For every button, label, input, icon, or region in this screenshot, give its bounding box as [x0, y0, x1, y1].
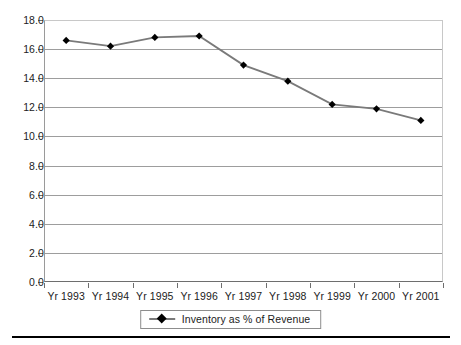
- y-tick-label: 14.0: [8, 73, 44, 83]
- y-tick-label: 8.0: [8, 161, 44, 171]
- y-tick-label: 6.0: [8, 190, 44, 200]
- footer-divider: [12, 336, 450, 338]
- x-tick-mark: [443, 283, 444, 288]
- x-tick-mark: [354, 283, 355, 288]
- x-tick-label: Yr 2001: [391, 291, 451, 302]
- chart-legend: Inventory as % of Revenue: [140, 310, 322, 329]
- series-line: [66, 36, 421, 120]
- x-tick-mark: [266, 283, 267, 288]
- data-point-marker: [107, 43, 114, 50]
- data-point-marker: [63, 37, 70, 44]
- x-tick-mark: [221, 283, 222, 288]
- line-chart: 0.02.04.06.08.010.012.014.016.018.0 Yr 1…: [0, 0, 461, 345]
- data-point-marker: [417, 117, 424, 124]
- diamond-marker-icon: [149, 314, 175, 324]
- data-series-layer: [44, 20, 443, 282]
- y-tick-label: 10.0: [8, 131, 44, 141]
- y-tick-label: 16.0: [8, 44, 44, 54]
- data-point-marker: [329, 101, 336, 108]
- x-tick-mark: [88, 283, 89, 288]
- x-tick-mark: [133, 283, 134, 288]
- x-tick-mark: [44, 283, 45, 288]
- data-point-marker: [373, 105, 380, 112]
- y-tick-label: 12.0: [8, 102, 44, 112]
- data-point-marker: [284, 78, 291, 85]
- legend-item-label: Inventory as % of Revenue: [182, 313, 311, 325]
- x-axis: Yr 1993Yr 1994Yr 1995Yr 1996Yr 1997Yr 19…: [44, 283, 443, 307]
- x-tick-mark: [177, 283, 178, 288]
- x-tick-mark: [399, 283, 400, 288]
- data-point-marker: [151, 34, 158, 41]
- y-tick-label: 2.0: [8, 248, 44, 258]
- x-tick-mark: [310, 283, 311, 288]
- y-tick-label: 18.0: [8, 15, 44, 25]
- y-tick-label: 0.0: [8, 277, 44, 287]
- y-tick-label: 4.0: [8, 219, 44, 229]
